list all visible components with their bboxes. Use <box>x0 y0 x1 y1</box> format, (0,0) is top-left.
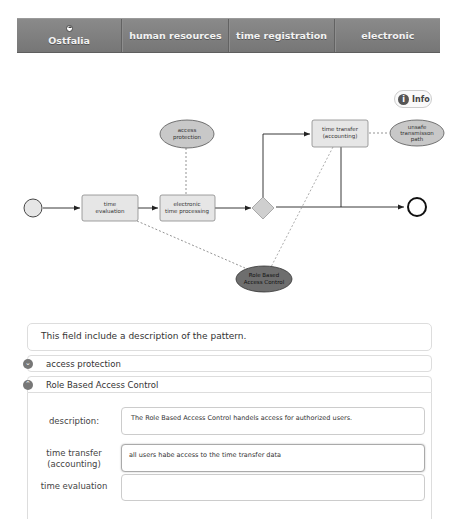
accordion-body-role-based-access-control: description: The Role Based Access Contr… <box>27 393 432 519</box>
svg-text:evaluation: evaluation <box>96 208 125 214</box>
nav-item-label: electronic <box>361 30 414 41</box>
accordion-title: Role Based Access Control <box>46 380 158 390</box>
description-textarea[interactable]: The Role Based Access Control handels ac… <box>121 407 425 435</box>
task-time-transfer[interactable]: time transfer (accounting) <box>312 120 368 147</box>
process-diagram: time evaluation electronic time processi… <box>0 100 457 300</box>
svg-text:time transfer: time transfer <box>322 126 359 132</box>
nav-item-label: time registration <box>236 30 327 41</box>
svg-text:Access Control: Access Control <box>244 279 285 285</box>
top-navbar: Ostfalia human resources time registrati… <box>17 18 440 53</box>
nav-item-time-registration[interactable]: time registration <box>229 19 335 52</box>
task-time-evaluation[interactable]: time evaluation <box>82 195 138 221</box>
start-event[interactable] <box>24 199 42 217</box>
association-rbac-evaluation <box>137 221 245 268</box>
chevron-up-icon: ⌃ <box>23 380 33 390</box>
svg-text:(accounting): (accounting) <box>323 133 358 140</box>
annotation-role-based-access-control[interactable]: Role Based Access Control <box>236 266 292 292</box>
nav-item-label: human resources <box>129 30 221 41</box>
svg-text:electronic: electronic <box>173 201 200 207</box>
accordion-title: access protection <box>46 359 121 369</box>
nav-item-electronic[interactable]: electronic <box>335 19 440 52</box>
chevron-down-icon: ⌄ <box>23 359 33 369</box>
nav-item-human-resources[interactable]: human resources <box>122 19 228 52</box>
home-icon <box>66 25 73 32</box>
time-transfer-textarea[interactable]: all users habe access to the time transf… <box>121 444 425 472</box>
nav-item-label: Ostfalia <box>48 35 90 46</box>
svg-text:protection: protection <box>173 134 202 141</box>
flow-gateway-to-transfer <box>263 134 310 199</box>
field-label-description: description: <box>28 416 120 427</box>
pattern-description-text: This field include a description of the … <box>41 331 246 341</box>
svg-text:access: access <box>178 127 197 133</box>
field-label-time-transfer: time transfer (accounting) <box>28 448 120 469</box>
task-electronic-time-processing[interactable]: electronic time processing <box>160 195 215 221</box>
nav-item-ostfalia[interactable]: Ostfalia <box>17 19 122 52</box>
svg-text:Role Based: Role Based <box>249 272 279 278</box>
end-event[interactable] <box>408 198 426 216</box>
exclusive-gateway[interactable] <box>252 197 274 219</box>
svg-text:time processing: time processing <box>165 208 209 215</box>
svg-text:time: time <box>104 201 117 207</box>
annotation-access-protection[interactable]: access protection <box>160 120 214 148</box>
annotation-unsafe-transmission-path[interactable]: unsafe transmisson path <box>390 120 444 146</box>
pattern-description-panel: This field include a description of the … <box>27 323 432 351</box>
accordion-header-role-based-access-control[interactable]: ⌃ Role Based Access Control <box>27 376 432 393</box>
accordion-header-access-protection[interactable]: ⌄ access protection <box>27 355 432 372</box>
svg-text:path: path <box>411 136 424 143</box>
field-label-time-evaluation: time evaluation <box>28 481 120 492</box>
time-evaluation-textarea[interactable] <box>121 474 425 501</box>
